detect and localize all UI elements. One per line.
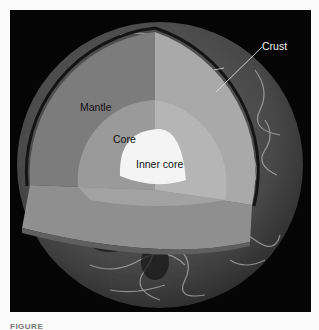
- label-crust: Crust: [262, 40, 287, 52]
- label-inner-core: Inner core: [136, 158, 183, 170]
- figure-caption: FIGURE: [10, 322, 43, 330]
- label-core: Core: [113, 133, 136, 145]
- label-mantle: Mantle: [80, 101, 112, 113]
